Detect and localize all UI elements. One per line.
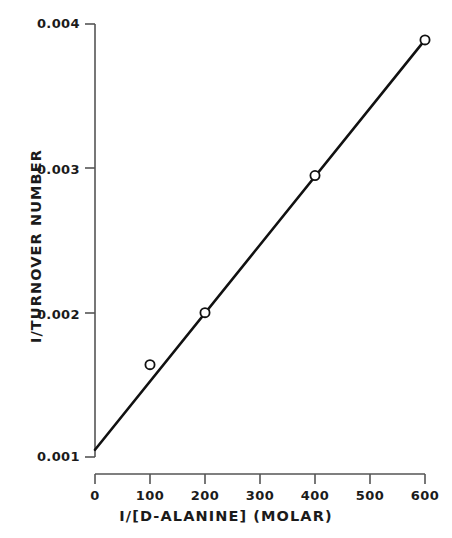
data-point [200, 308, 209, 317]
chart-figure: I/TURNOVER NUMBER 0.004 0.003 0.002 0.00… [0, 0, 452, 538]
data-point [145, 360, 154, 369]
data-point [310, 171, 319, 180]
plot-area [0, 0, 452, 538]
trend-line [95, 40, 425, 450]
data-point [420, 35, 429, 44]
